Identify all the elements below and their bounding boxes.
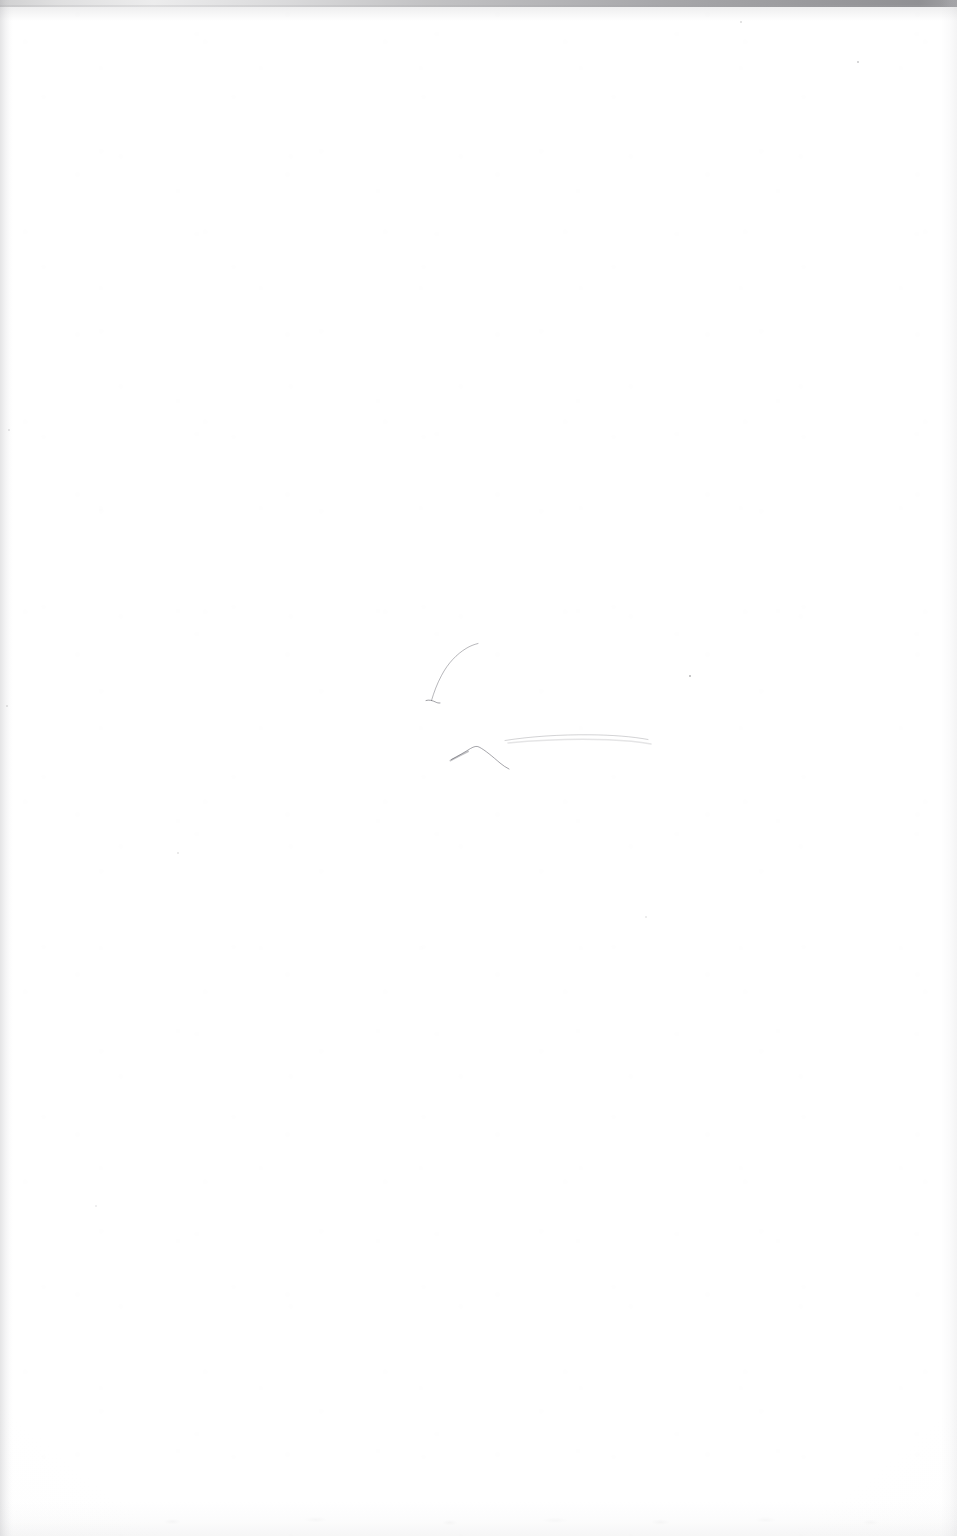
speck-lower-right <box>645 916 646 917</box>
speck-top-right <box>857 61 859 63</box>
speck-lower-left <box>95 1205 96 1206</box>
scanned-page <box>0 0 957 1536</box>
speck-edge-left-lower <box>6 705 8 707</box>
speck-top-center <box>740 21 742 23</box>
pencil-marks-group <box>0 0 957 1536</box>
long-horizontal-stroke-fade <box>508 739 651 744</box>
diagonal-ascender-stroke <box>432 644 479 701</box>
caret-left-tail <box>451 752 469 761</box>
speck-left-mid <box>177 852 179 854</box>
caret-peak-stroke <box>452 746 510 769</box>
diagonal-stroke-tail-hook <box>426 700 440 703</box>
speck-edge-left-upper <box>8 429 10 431</box>
